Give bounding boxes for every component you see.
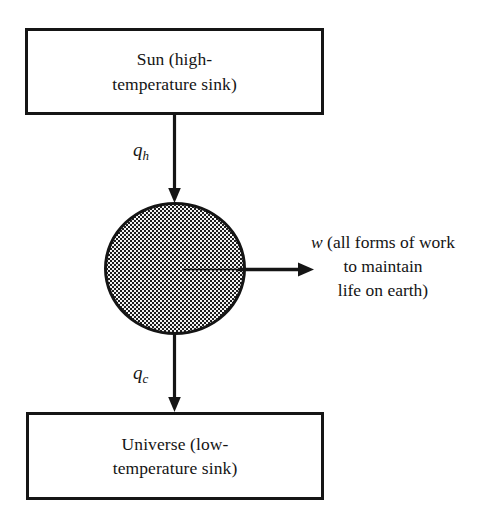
sink-node-universe: Universe (low- temperature sink)	[26, 412, 324, 500]
sink-node-label: Universe (low- temperature sink)	[113, 432, 238, 480]
heat-out-symbol: q	[133, 362, 143, 383]
heat-out-subscript: c	[143, 371, 149, 386]
label-heat-out: qc	[133, 363, 148, 385]
diagram-canvas: Sun (high- temperature sink) qh w (all f…	[0, 0, 490, 531]
